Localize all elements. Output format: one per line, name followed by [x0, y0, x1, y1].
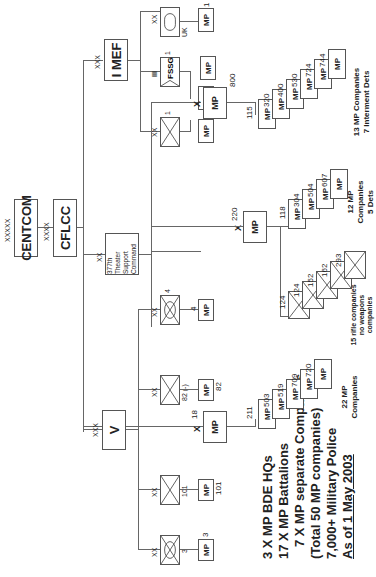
div4-echelon: XX [151, 308, 158, 317]
imef-u2-echelon: III [151, 71, 158, 77]
bde18-co-519-number: 519 [276, 384, 285, 397]
bde800-co-724-number: 724 [304, 64, 313, 77]
imef-box: I MEF [104, 39, 128, 81]
summary-total: (Total 50 MP companies) [308, 374, 324, 559]
imef-u2-down [180, 71, 190, 72]
bde18-echelon: X [192, 426, 202, 432]
div3-down [180, 549, 198, 550]
div4-designation: 4 [164, 289, 171, 293]
summary-strength: 7,000+ Military Police [324, 374, 340, 559]
imef-u3-down [180, 21, 198, 22]
bde800-box: MP [203, 87, 227, 119]
bde18-down [227, 426, 255, 427]
cflcc-box: CFLCC [53, 199, 77, 257]
bde18-co-709-number: 709 [290, 374, 299, 387]
bde800-co-400-number: 400 [276, 84, 285, 97]
bde800-echelon: X [192, 101, 202, 107]
v-box: V [102, 410, 126, 450]
infantry-division-icon [160, 117, 180, 147]
bde220-note-3: 5 Dets [366, 172, 376, 232]
rifle-3-number: 152 [306, 274, 315, 287]
div4-mp: MP [198, 299, 214, 321]
div101-mp: MP [198, 479, 214, 501]
bde18-link [83, 426, 203, 427]
div3-echelon: XX [151, 548, 158, 557]
centcom-box: CENTCOM [14, 199, 38, 257]
imef-u3-echelon: XX [151, 15, 158, 24]
bde220-co-118-number: 118 [278, 206, 287, 219]
airborne-division-icon [160, 375, 180, 405]
tsc-box: 377th Theater Support Command [105, 233, 139, 275]
bde18-co-211-number: 211 [245, 406, 254, 419]
bde800-co-744-number: 744 [318, 54, 327, 67]
bde18-note: 22 MP Companies [340, 367, 360, 427]
imef-bus [140, 12, 141, 132]
bde800-co-320-number: 320 [262, 94, 271, 107]
bde220-link-a [151, 251, 201, 252]
bde18-co-link [255, 419, 256, 427]
bde18-number: 18 [190, 410, 199, 419]
bde18-box: MP [203, 411, 227, 443]
bde220-down [267, 226, 280, 227]
imef-u2-bus [190, 71, 191, 99]
imef-u3-mp: MP [198, 8, 214, 32]
fssg-icon: FSSG [160, 57, 180, 87]
imef-echelon: XXX [94, 55, 101, 69]
imef-u1-bus [190, 120, 191, 132]
div82-echelon: XX [151, 388, 158, 397]
rifle-note-3: companies [366, 275, 374, 355]
bde800-note: 13 MP Companies 7 Interment Dets [352, 57, 372, 147]
fssg-label: FSSG [166, 57, 175, 79]
bde220-note-1: 12 MP [346, 172, 356, 232]
bde220-link [151, 226, 243, 227]
tsc-label-1: 377th Theater [106, 234, 122, 274]
div82-mp: MP [198, 379, 214, 401]
imef-u2-mp2: MP [200, 56, 216, 80]
bde220-note-2: Companies [356, 172, 366, 232]
bde220-co-607-number: 607 [320, 174, 329, 187]
div82-down [180, 389, 198, 390]
div101-mp-number: 101 [214, 482, 223, 495]
bde220-number: 220 [230, 208, 239, 221]
div4-mp-number: 4 [189, 307, 198, 311]
bde800-note-2: 7 Interment Dets [362, 57, 372, 147]
div3-mp: MP [198, 539, 214, 561]
cflcc-echelon: XXXX [43, 222, 50, 241]
armor-division-icon [160, 7, 180, 37]
tsc-label-2: Support Command [122, 234, 138, 274]
imef-u1-down [180, 131, 190, 132]
imef-u1-echelon: XX [151, 128, 158, 137]
rifle-note: 15 rifle companies no weapons companies [350, 275, 374, 355]
imef-down [128, 60, 140, 61]
div101-down [180, 489, 198, 490]
bde220-co-link [280, 226, 288, 227]
rifle-4-number: 162 [320, 264, 329, 277]
tsc-bus [151, 102, 152, 327]
imef-u3-link [140, 11, 160, 12]
mech-division-icon [160, 295, 180, 325]
rifle-link [280, 316, 288, 317]
bde220-note: 12 MP Companies 5 Dets [346, 172, 376, 232]
rifle-note-2: no weapons [358, 275, 366, 355]
rifle-5-number: 293 [334, 254, 343, 267]
tsc-down [139, 254, 151, 255]
tsc-echelon: XX [96, 253, 103, 262]
imef-u3-suffix: UK [181, 27, 188, 37]
div82-designation: 82 (-) [181, 384, 188, 401]
bde800-co-530-number: 530 [290, 74, 299, 87]
bde18-note-1: 22 MP [340, 367, 350, 427]
div101-echelon: XX [151, 488, 158, 497]
bde220-box: MP [243, 211, 267, 243]
div101-designation: 101 [181, 485, 188, 497]
bde800-co-744: MP [328, 49, 346, 79]
imef-u3-mp-number: 1 [202, 3, 211, 7]
bde220-joint [151, 251, 152, 252]
bde800-co-115-number: 115 [245, 106, 254, 119]
bde800-note-1: 13 MP Companies [352, 57, 362, 147]
centcom-echelon: XXXXX [4, 219, 11, 242]
div82-mp-number: 82 [214, 382, 223, 391]
imef-u2-size: 1 [164, 51, 171, 55]
v-down [126, 429, 138, 430]
bde800-co-link [255, 102, 256, 115]
